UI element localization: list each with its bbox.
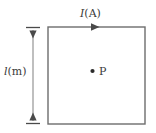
dimension-arrow-down-icon — [29, 31, 36, 39]
current-label: I(A) — [79, 7, 101, 20]
dimension-arrow-up-icon — [29, 113, 36, 121]
square-current-loop-diagram: I(A) l(m) P — [0, 0, 156, 133]
figure-container: I(A) l(m) P — [0, 0, 156, 133]
current-direction-arrow-icon — [91, 23, 100, 31]
current-unit: (A) — [84, 7, 101, 20]
point-p-label: P — [99, 65, 107, 78]
side-length-label: l(m) — [4, 65, 27, 78]
point-p-dot — [90, 69, 94, 73]
side-length-unit: (m) — [8, 65, 27, 78]
current-loop-square — [48, 27, 145, 124]
